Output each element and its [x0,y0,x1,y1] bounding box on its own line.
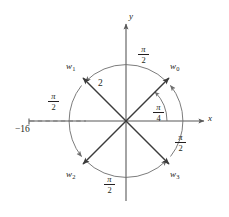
pi-over-4-denominator: 4 [153,114,164,123]
vector-w2 [83,121,126,164]
arc-left-numerator: π [48,92,59,101]
roots-of-unity-figure: y x −16 2 w0 w1 w2 w3 π 4 π 2 π 2 π 2 π … [0,0,229,217]
root-label-w3-index: 3 [176,173,179,180]
root-label-w3: w3 [170,170,179,179]
root-label-w1-index: 1 [72,65,75,72]
radius-label: 2 [98,79,103,89]
x-axis-label: x [208,114,212,123]
arc-bottom-numerator: π [104,175,115,184]
root-label-w2-index: 2 [72,173,75,180]
vector-w3 [126,121,169,164]
root-label-w0: w0 [170,62,179,71]
arc-left-denominator: 2 [48,103,59,112]
arc-right-denominator: 2 [175,144,186,153]
arc-label-top-pi-over-2: π 2 [138,45,149,65]
y-axis-label: y [129,12,133,21]
tick-label-minus16: −16 [15,125,30,135]
arc-right-numerator: π [175,133,186,142]
angle-label-pi-over-4: π 4 [153,103,164,123]
arc-label-bottom-pi-over-2: π 2 [104,175,115,195]
root-label-w2: w2 [66,170,75,179]
arc-top-denominator: 2 [138,56,149,65]
root-label-w0-index: 0 [176,65,179,72]
arc-label-right-pi-over-2: π 2 [175,133,186,153]
arc-bottom-denominator: 2 [104,186,115,195]
arc-top-numerator: π [138,45,149,54]
pi-over-4-numerator: π [153,103,164,112]
vector-w1 [83,78,126,121]
root-label-w1: w1 [66,62,75,71]
arc-label-left-pi-over-2: π 2 [48,92,59,112]
